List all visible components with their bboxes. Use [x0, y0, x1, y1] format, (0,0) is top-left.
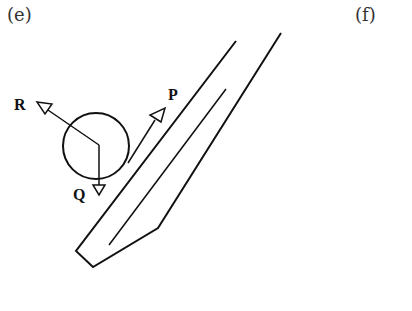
blade-outline	[76, 33, 281, 267]
force-label-q: Q	[73, 186, 85, 203]
free-body-diagram: R P Q	[0, 0, 412, 311]
inclined-blade	[76, 33, 281, 267]
ball-circle	[63, 113, 129, 179]
force-p-arrow	[128, 108, 165, 163]
force-q-arrow	[93, 145, 105, 195]
force-r-arrow	[37, 102, 99, 145]
force-label-r: R	[14, 96, 26, 113]
force-label-p: P	[168, 86, 178, 103]
blade-inner-line	[109, 89, 226, 245]
